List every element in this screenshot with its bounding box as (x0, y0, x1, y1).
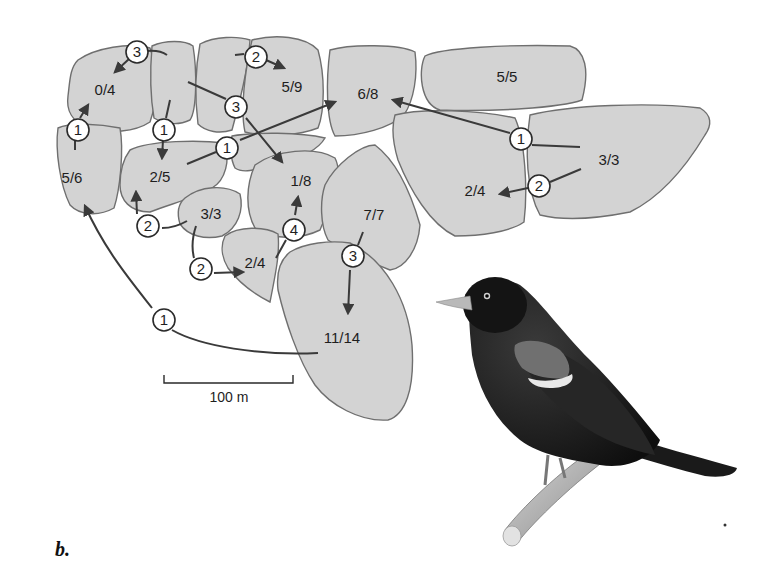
bird-beak (436, 296, 472, 310)
count-node: 1 (153, 119, 175, 141)
perch-end (503, 526, 521, 546)
svg-text:1: 1 (517, 130, 525, 147)
scale-bar: 100 m (164, 375, 293, 405)
svg-text:3: 3 (133, 43, 141, 60)
scale-bar-label: 100 m (210, 389, 249, 405)
svg-text:1: 1 (74, 121, 82, 138)
count-node: 1 (153, 309, 175, 331)
territory-label: 11/14 (324, 329, 360, 346)
territory-label: 1/8 (291, 172, 312, 189)
count-node: 1 (216, 137, 238, 159)
svg-text:1: 1 (223, 139, 231, 156)
territory-top-middle (196, 37, 250, 132)
svg-text:3: 3 (232, 98, 240, 115)
count-node: 1 (510, 128, 532, 150)
count-node: 3 (225, 96, 247, 118)
svg-text:1: 1 (160, 311, 168, 328)
count-node: 4 (283, 219, 305, 241)
speck (724, 524, 727, 527)
territory-label: 6/8 (358, 85, 379, 102)
territory-label: 5/5 (497, 68, 518, 85)
count-node: 2 (190, 258, 212, 280)
count-node: 2 (245, 46, 267, 68)
svg-text:2: 2 (144, 217, 152, 234)
svg-text:2: 2 (197, 260, 205, 277)
territory-label: 5/9 (282, 78, 303, 95)
svg-text:1: 1 (160, 121, 168, 138)
territory-label: 7/7 (364, 206, 385, 223)
count-node: 1 (67, 119, 89, 141)
blackbird-illustration (436, 277, 737, 546)
svg-text:2: 2 (252, 48, 260, 65)
territory-label: 2/4 (465, 182, 486, 199)
count-node: 2 (137, 215, 159, 237)
count-node: 3 (126, 41, 148, 63)
count-node: 3 (342, 245, 364, 267)
panel-label: b. (55, 538, 70, 561)
territory-label: 5/6 (62, 169, 83, 186)
territory-label: 3/3 (201, 205, 222, 222)
svg-text:3: 3 (349, 247, 357, 264)
territory-label: 2/5 (150, 168, 171, 185)
territory-label: 2/4 (245, 254, 266, 271)
territory-label: 3/3 (599, 151, 620, 168)
svg-text:4: 4 (290, 221, 298, 238)
count-node: 2 (528, 175, 550, 197)
bird-pupil (485, 294, 489, 298)
svg-text:2: 2 (535, 177, 543, 194)
territory-map-figure: 0/4 5/9 6/8 5/5 5/6 2/5 1/8 3/3 2/4 7/7 … (0, 0, 770, 577)
territory-label: 0/4 (95, 81, 116, 98)
bird-head (463, 277, 527, 333)
